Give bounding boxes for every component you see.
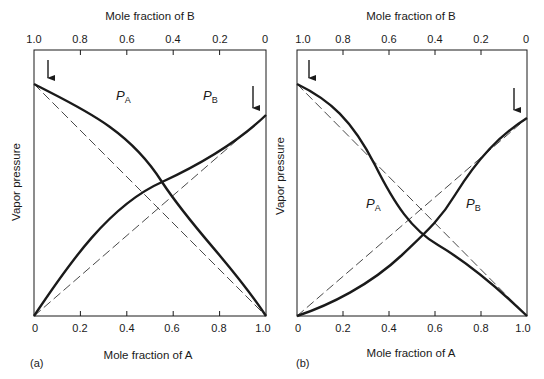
panel-a-top-tick: 0.8 — [72, 33, 87, 45]
panel-b-top-ticks — [343, 50, 481, 55]
panel-b-top-tick: 0.6 — [381, 33, 396, 45]
panel-a-bottom-tick: 0.6 — [164, 322, 179, 334]
panel-a-plot — [34, 50, 266, 316]
panel-a-top-tick: 0 — [262, 33, 268, 45]
panel-b-bottom-tick: 0.6 — [427, 322, 442, 334]
vapor-pressure-figure: Mole fraction of B 1.0 0.8 0.6 0.4 0.2 0… — [0, 0, 544, 379]
panel-b-bottom-ticks — [343, 311, 481, 316]
panel-b-bottom-tick: 0.8 — [473, 322, 488, 334]
panel-a-bottom-tick: 0 — [32, 322, 38, 334]
panel-b-top-tick: 0 — [523, 33, 529, 45]
panel-b-top-axis-title: Mole fraction of B — [366, 10, 455, 22]
panel-b-bottom-tick: 0.4 — [381, 322, 396, 334]
panel-b-pa-label: PA — [366, 196, 381, 213]
panel-a-tag: (a) — [30, 357, 43, 369]
panel-a-bottom-ticks — [80, 311, 219, 316]
panel-b-frame — [297, 50, 527, 316]
panel-a-y-axis-title: Vapor pressure — [10, 142, 22, 222]
panel-b-top-tick: 1.0 — [295, 33, 310, 45]
panel-a-top-tick: 0.2 — [212, 33, 227, 45]
panel-a-pa-label: PA — [116, 88, 131, 105]
panel-b-plot — [297, 50, 527, 316]
panel-a-top-tick: 0.4 — [165, 33, 180, 45]
panel-a-bottom-tick: 0.2 — [72, 322, 87, 334]
panel-b-bottom-tick: 0.2 — [335, 322, 350, 334]
panel-b-bottom-tick: 0 — [295, 322, 301, 334]
panel-a-pb-label: PB — [203, 88, 218, 105]
panel-b-tag: (b) — [296, 357, 309, 369]
panel-a-ideal-a-line — [34, 115, 266, 316]
panel-a-bottom-axis-title: Mole fraction of A — [104, 349, 193, 361]
panel-a-bottom-tick: 0.4 — [119, 322, 134, 334]
panel-b-ideal-b-line — [297, 84, 527, 316]
panel-a-top-tick: 0.6 — [119, 33, 134, 45]
panel-a-top-tick: 1.0 — [26, 33, 41, 45]
panel-a-bottom-tick: 1.0 — [255, 322, 270, 334]
panel-a-ideal-b-line — [34, 84, 266, 316]
panel-a-frame — [34, 50, 266, 316]
panel-a-top-ticks — [80, 50, 219, 55]
panel-b-top-tick: 0.2 — [473, 33, 488, 45]
panel-a-top-axis-title: Mole fraction of B — [105, 10, 194, 22]
panel-b-bottom-axis-title: Mole fraction of A — [367, 347, 456, 359]
panel-a-bottom-tick: 0.8 — [211, 322, 226, 334]
panel-b-ideal-a-line — [297, 118, 527, 316]
panel-b-y-axis-title: Vapor pressure — [274, 136, 286, 216]
panel-b-top-tick: 0.8 — [335, 33, 350, 45]
panel-b-top-tick: 0.4 — [427, 33, 442, 45]
panel-b-pb-label: PB — [466, 196, 481, 213]
panel-b-bottom-tick: 1.0 — [515, 322, 530, 334]
